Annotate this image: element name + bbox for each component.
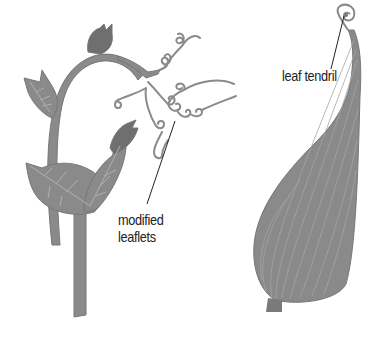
main-stem [74, 210, 86, 317]
label-modified-leaflets-line1: modified [118, 211, 163, 228]
tendril-coil-center [344, 13, 348, 17]
upper-left-leaf [24, 70, 57, 118]
label-modified-leaflets-line2: leaflets [118, 228, 163, 245]
left-plant-illustration [24, 24, 160, 317]
side-bud [110, 120, 138, 154]
label-modified-leaflets: modified leaflets [118, 211, 163, 245]
tendril-coil [338, 5, 355, 30]
right-leaf-illustration [254, 5, 361, 312]
tendril-leader-line [331, 16, 344, 69]
label-leaf-tendril: leaf tendril [282, 67, 337, 84]
tendril-diagram [0, 0, 389, 338]
leaf-petiole [266, 298, 282, 312]
top-bud [88, 24, 113, 54]
